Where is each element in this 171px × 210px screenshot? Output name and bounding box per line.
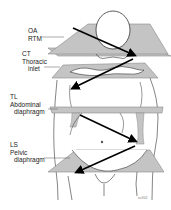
- label-ct-line1: CT: [22, 50, 47, 58]
- label-ct: CT Thoracic inlet: [22, 50, 47, 73]
- figure-credit: ncl/02: [138, 196, 147, 200]
- groin-outline: [95, 172, 137, 196]
- label-tl-line1: TL: [10, 93, 45, 101]
- head-outline: [96, 11, 130, 49]
- leg-left-outline: [68, 176, 72, 200]
- arm-right-outline: [140, 82, 142, 110]
- label-tl: TL Abdominal diaphragm: [10, 93, 45, 116]
- label-ls-line1: LS: [10, 141, 45, 149]
- label-tl-line2: Abdominal: [10, 101, 45, 109]
- label-ct-line3: inlet: [22, 65, 47, 73]
- navel: [101, 141, 103, 143]
- label-ct-line2: Thoracic: [22, 58, 47, 66]
- tl-plane: [50, 107, 163, 113]
- torso-right-outline: [150, 78, 158, 200]
- label-oa: OA RTM: [28, 27, 42, 42]
- label-ls: LS Pelvic diaphragm: [10, 141, 45, 164]
- diaphragm-diagram: OA RTM CT Thoracic inlet TL Abdominal di…: [0, 0, 171, 210]
- label-oa-line1: OA: [28, 27, 42, 35]
- label-oa-line2: RTM: [28, 35, 42, 43]
- label-ls-line3: diaphragm: [10, 156, 45, 164]
- torso-left-outline: [54, 80, 58, 200]
- arrow-tl-to-ls: [80, 115, 135, 141]
- label-tl-line3: diaphragm: [10, 108, 45, 116]
- label-ls-line2: Pelvic: [10, 149, 45, 157]
